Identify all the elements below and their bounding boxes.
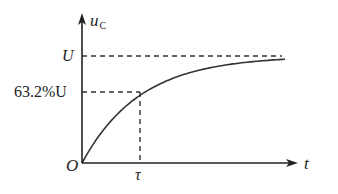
tick-label-u: U (62, 48, 74, 64)
charging-curve (82, 59, 285, 163)
y-axis-label-subscript: C (100, 20, 107, 31)
x-axis-label: t (304, 155, 309, 172)
y-axis-label-main: u (90, 11, 99, 30)
tick-label-tau: τ (135, 167, 141, 183)
y-axis-label: uC (90, 12, 106, 29)
tick-label-63-2-text: 63.2%U (14, 83, 67, 100)
tick-label-63-2-percent-u: 63.2%U (14, 84, 67, 100)
origin-label: O (66, 157, 78, 174)
